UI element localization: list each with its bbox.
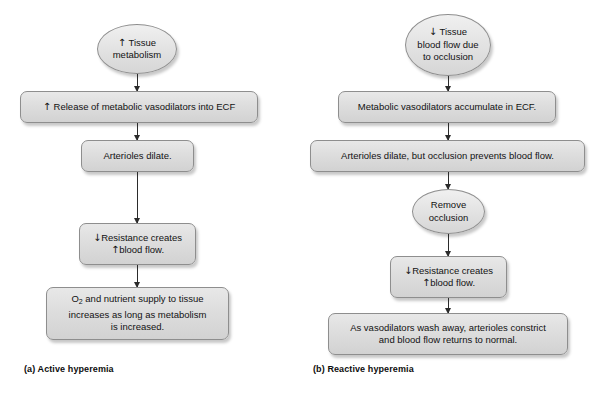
node-text-line2: increases as long as metabolism — [69, 309, 207, 320]
connector-b3-b4 — [448, 172, 449, 189]
node-arterioles-dilate-label: Arterioles dilate. — [88, 150, 187, 163]
node-arterioles-dilate-occlusion-label: Arterioles dilate, but occlusion prevent… — [317, 150, 578, 163]
node-text-line1: Resistance creates — [412, 265, 493, 276]
connector-b2-b3 — [448, 123, 449, 140]
node-text-line2: blood flow. — [119, 244, 164, 255]
node-resistance-blood-flow-a: ↓Resistance creates↑blood flow. — [79, 223, 196, 265]
caption-panel-b: (b) Reactive hyperemia — [313, 364, 414, 374]
node-arterioles-dilate: Arterioles dilate. — [81, 140, 194, 172]
node-arterioles-dilate-occlusion: Arterioles dilate, but occlusion prevent… — [310, 140, 585, 172]
node-tissue-metabolism-label: ↑ Tissuemetabolism — [102, 37, 172, 62]
node-tissue-blood-flow-occlusion: ↓ Tissueblood flow dueto occlusion — [405, 14, 491, 76]
connector-a4-a5 — [137, 265, 138, 287]
caption-panel-a: (a) Active hyperemia — [24, 364, 114, 374]
node-text-line1: and nutrient supply to tissue — [83, 293, 204, 304]
node-text-line2: and blood flow returns to normal. — [379, 334, 517, 345]
node-remove-occlusion-label: Removeocclusion — [417, 199, 480, 224]
node-release-vasodilators: ↑ Release of metabolic vasodilators into… — [20, 91, 258, 123]
node-text-line2: occlusion — [429, 212, 469, 223]
node-text-line1: As vasodilators wash away, arterioles co… — [350, 322, 546, 333]
node-text-line1: Tissue — [129, 37, 157, 48]
node-text-line1: Remove — [431, 199, 466, 210]
node-text-o2: O — [71, 293, 78, 304]
node-release-vasodilators-label: ↑ Release of metabolic vasodilators into… — [27, 101, 251, 114]
node-text-line3: to occlusion — [423, 51, 473, 62]
figure-canvas: ↑ Tissuemetabolism ↑ Release of metaboli… — [0, 0, 595, 393]
node-vasodilators-wash-away-label: As vasodilators wash away, arterioles co… — [335, 322, 561, 347]
node-text-line1: Tissue — [440, 26, 468, 37]
node-tissue-metabolism: ↑ Tissuemetabolism — [97, 24, 177, 74]
node-resistance-blood-flow-a-label: ↓Resistance creates↑blood flow. — [86, 232, 189, 257]
node-o2-nutrient-supply-label: O2 and nutrient supply to tissueincrease… — [53, 293, 222, 333]
node-text-line2: metabolism — [113, 49, 162, 60]
arrow-down-icon: ↓ — [93, 232, 101, 243]
node-resistance-blood-flow-b: ↓Resistance creates↑blood flow. — [390, 256, 507, 298]
connector-a3-a4 — [137, 172, 138, 223]
node-text-line2: blood flow. — [430, 277, 475, 288]
node-remove-occlusion: Removeocclusion — [412, 189, 485, 234]
node-text-line1: Release of metabolic vasodilators into E… — [51, 101, 235, 112]
node-vasodilators-accumulate: Metabolic vasodilators accumulate in ECF… — [338, 91, 556, 123]
node-text-line1: Resistance creates — [101, 232, 182, 243]
node-text-line3: is increased. — [111, 321, 164, 332]
node-text-line2: blood flow due — [417, 39, 478, 50]
node-vasodilators-accumulate-label: Metabolic vasodilators accumulate in ECF… — [345, 101, 549, 114]
node-resistance-blood-flow-b-label: ↓Resistance creates↑blood flow. — [397, 265, 500, 290]
node-tissue-blood-flow-occlusion-label: ↓ Tissueblood flow dueto occlusion — [410, 26, 486, 64]
connector-a2-a3 — [137, 123, 138, 140]
connector-b1-b2 — [448, 76, 449, 91]
arrow-up-icon: ↑ — [118, 37, 126, 48]
arrow-down-icon: ↓ — [429, 26, 437, 37]
arrow-down-icon: ↓ — [404, 265, 412, 276]
arrow-up-icon: ↑ — [422, 277, 430, 288]
node-vasodilators-wash-away: As vasodilators wash away, arterioles co… — [328, 313, 568, 355]
node-o2-nutrient-supply: O2 and nutrient supply to tissueincrease… — [46, 287, 229, 340]
connector-a1-a2 — [137, 74, 138, 91]
connector-b5-b6 — [448, 298, 449, 313]
arrow-up-icon: ↑ — [111, 244, 119, 255]
connector-b4-b5 — [448, 234, 449, 256]
arrow-up-icon: ↑ — [43, 101, 51, 112]
